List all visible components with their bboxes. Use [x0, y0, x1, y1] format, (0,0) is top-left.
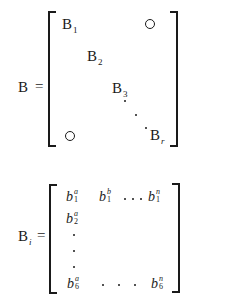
elem-sub: 6: [75, 283, 79, 291]
block-sub: r: [161, 136, 165, 146]
elem-sub: 1: [156, 196, 160, 204]
elem-base: b: [66, 211, 73, 226]
matrix-bi-symbol: B: [18, 228, 28, 244]
element-b6a: ba6: [67, 277, 79, 293]
elem-sub: 1: [74, 196, 78, 204]
block-base: B: [62, 16, 72, 32]
left-bracket: [49, 184, 57, 294]
block-sub: 2: [98, 57, 103, 67]
equals-sign: =: [35, 79, 43, 94]
block-sub: 3: [123, 89, 128, 99]
block-b2: B2: [87, 49, 103, 64]
element-b6n: bn6: [151, 277, 163, 293]
elem-base: b: [148, 189, 155, 204]
zero-block-top-right: [145, 19, 155, 29]
elem-base: b: [99, 189, 106, 204]
element-b1b: bb1: [99, 190, 111, 206]
right-bracket: [172, 183, 180, 293]
diagonal-dot: [124, 100, 126, 102]
right-bracket: [170, 11, 178, 147]
row-ellipsis-dot: [140, 198, 142, 200]
element-b2a: ba2: [66, 212, 78, 228]
zero-block-bottom-left: [65, 131, 75, 141]
elem-sub: 1: [107, 196, 111, 204]
elem-base: b: [66, 189, 73, 204]
diagonal-dot: [145, 127, 147, 129]
column-ellipsis-dot: [73, 234, 75, 236]
row-ellipsis-dot: [118, 284, 120, 286]
block-b3: B3: [112, 81, 128, 96]
elem-base: b: [151, 276, 158, 291]
block-base: B: [87, 48, 97, 64]
block-sub: 1: [73, 25, 78, 35]
element-b1a: ba1: [66, 190, 78, 206]
column-ellipsis-dot: [73, 266, 75, 268]
matrix-bi-sub: i: [29, 237, 32, 247]
left-bracket: [48, 11, 56, 147]
row-ellipsis-dot: [132, 198, 134, 200]
row-ellipsis-dot: [102, 284, 104, 286]
row-ellipsis-dot: [134, 284, 136, 286]
diagonal-dot: [135, 114, 137, 116]
matrix-bi-label: Bi: [18, 229, 32, 244]
elem-sub: 2: [74, 218, 78, 226]
element-b1n: bn1: [148, 190, 160, 206]
row-ellipsis-dot: [124, 198, 126, 200]
block-base: B: [150, 127, 160, 143]
matrix-b-label: B: [18, 80, 28, 95]
equals-sign: =: [37, 228, 45, 243]
block-b1: B1: [62, 17, 78, 32]
elem-sub: 6: [159, 283, 163, 291]
column-ellipsis-dot: [73, 250, 75, 252]
block-base: B: [112, 80, 122, 96]
matrix-b-symbol: B: [18, 79, 28, 95]
elem-base: b: [67, 276, 74, 291]
block-br: Br: [150, 128, 165, 143]
